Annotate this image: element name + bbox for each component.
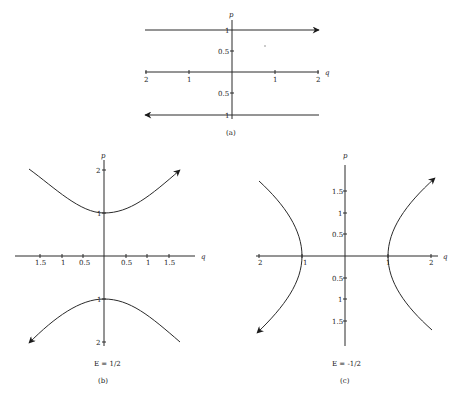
panel-a: p q 2 1 1 2 1 0.5 0.5 1 (a) (144, 11, 330, 137)
x-tick: 1 (273, 76, 277, 84)
y-tick: 0.5 (218, 90, 229, 98)
x-tick: 2 (144, 76, 148, 84)
p-axis-label: p (101, 152, 106, 160)
panel-b: p q 1.5 1 0.5 0.5 1 1.5 2 1 1 2 E = 1/2 … (15, 152, 206, 385)
y-tick: 1 (225, 27, 229, 35)
y-tick: 1.5 (332, 318, 343, 326)
y-tick: 1 (338, 296, 342, 304)
y-tick: 0.5 (332, 231, 343, 239)
x-tick: 1 (146, 259, 150, 267)
x-tick: 1.5 (35, 259, 46, 267)
q-axis-label: q (325, 69, 330, 77)
energy-label: E = 1/2 (94, 360, 121, 368)
x-tick: 1 (187, 76, 191, 84)
y-tick: 1 (97, 296, 101, 304)
y-tick: 0.5 (218, 48, 229, 56)
x-tick: 2 (429, 259, 433, 267)
x-tick: 1 (61, 259, 65, 267)
x-tick: 0.5 (121, 259, 132, 267)
x-tick: 2 (316, 76, 320, 84)
panel-c: p q 2 1 1 2 1.5 1 0.5 0.5 1 1.5 E = -1/2… (256, 152, 448, 385)
y-tick: 1 (338, 210, 342, 218)
y-tick: 1.5 (332, 188, 343, 196)
phase-portrait-figure: p q 2 1 1 2 1 0.5 0.5 1 (a) p q 1 (0, 0, 458, 397)
y-tick: 2 (96, 167, 100, 175)
q-axis-label: q (201, 253, 206, 261)
panel-caption: (c) (340, 377, 350, 385)
x-tick: 2 (258, 259, 262, 267)
y-tick: 2 (96, 339, 100, 347)
panel-caption: (a) (226, 129, 236, 137)
y-tick: 0.5 (332, 275, 343, 283)
y-tick: 1 (225, 112, 229, 120)
panel-caption: (b) (98, 377, 108, 385)
left-branch-arrow-icon (257, 181, 302, 333)
right-branch-arrow-icon (388, 178, 435, 330)
y-tick: 1 (97, 210, 101, 218)
p-axis-label: p (343, 152, 348, 160)
p-axis-label: p (229, 11, 234, 19)
x-tick: 1.5 (164, 259, 175, 267)
energy-label: E = -1/2 (332, 360, 361, 368)
x-tick: 0.5 (79, 259, 90, 267)
q-axis-label: q (443, 253, 448, 261)
x-tick: 1 (303, 259, 307, 267)
